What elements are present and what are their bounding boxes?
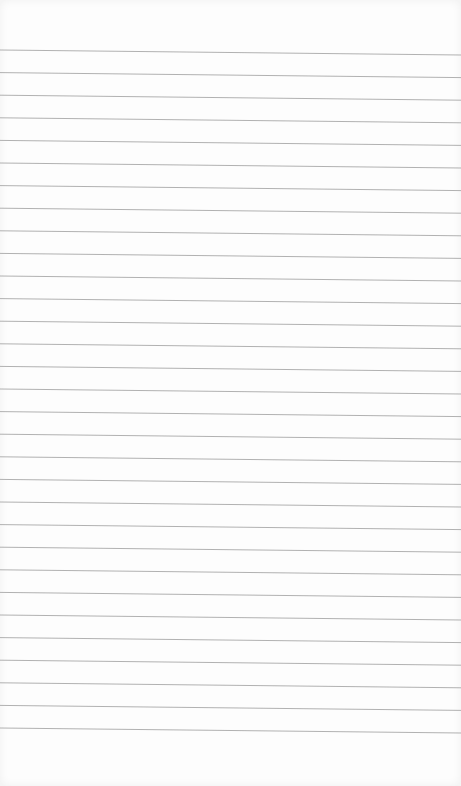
ruled-line [0,186,461,191]
ruled-line [0,705,461,710]
ruled-line [0,299,461,304]
ruled-lines [0,0,461,786]
ruled-line [0,321,461,326]
ruled-line [0,412,461,417]
ruled-line [0,50,461,55]
ruled-line [0,140,461,145]
ruled-line [0,163,461,168]
ruled-line [0,276,461,281]
ruled-line [0,208,461,213]
ruled-line [0,231,461,236]
ruled-line [0,73,461,78]
ruled-line [0,95,461,100]
ruled-line [0,615,461,620]
ruled-line [0,502,461,507]
ruled-line [0,389,461,394]
ruled-line [0,547,461,552]
ruled-line [0,592,461,597]
lined-paper-sheet [0,0,461,786]
ruled-line [0,434,461,439]
ruled-line [0,253,461,258]
ruled-line [0,660,461,665]
ruled-line [0,638,461,643]
ruled-line [0,525,461,530]
ruled-line [0,457,461,462]
ruled-line [0,344,461,349]
ruled-line [0,728,461,733]
ruled-line [0,366,461,371]
ruled-line [0,479,461,484]
ruled-line [0,118,461,123]
ruled-line [0,570,461,575]
ruled-line [0,683,461,688]
